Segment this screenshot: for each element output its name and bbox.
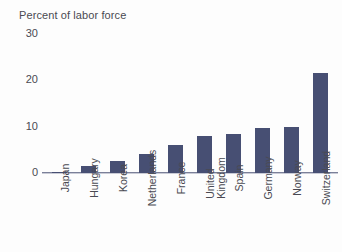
x-axis-tick-label: Netherlands (147, 150, 158, 207)
bar-chart-figure: Percent of labor force 0102030 JapanHung… (0, 0, 342, 252)
x-axis-tick: Hungary (81, 176, 96, 250)
x-axis-tick-label: Japan (60, 164, 71, 193)
plot-area (45, 34, 335, 173)
x-axis-tick: France (168, 176, 183, 250)
x-axis-tick-label: Spain (234, 165, 245, 192)
x-axis-tick: United Kingdom (197, 176, 212, 250)
x-axis-tick: Norway (284, 176, 299, 250)
x-axis-tick: Netherlands (139, 176, 154, 250)
x-axis-tick-label: Norway (292, 160, 303, 196)
x-axis-labels: JapanHungaryKoreaNetherlandsFranceUnited… (45, 176, 335, 252)
y-axis-tick-label: 30 (26, 28, 38, 39)
x-axis-tick-label: Korea (118, 164, 129, 192)
x-axis-tick-label: United Kingdom (205, 157, 227, 198)
x-axis-tick-label: Hungary (89, 158, 100, 198)
x-axis-tick: Japan (52, 176, 67, 250)
x-axis-tick-label: France (176, 162, 187, 195)
y-axis-tick-label: 20 (26, 74, 38, 85)
y-axis: 0102030 (0, 0, 45, 175)
y-axis-tick-label: 10 (26, 121, 38, 132)
x-axis-tick-label: Switzerland (321, 151, 332, 205)
x-axis-tick: Korea (110, 176, 125, 250)
y-axis-tick-label: 0 (32, 167, 38, 178)
x-axis-tick: Spain (226, 176, 241, 250)
x-axis-tick: Switzerland (313, 176, 328, 250)
x-axis-tick: Germany (255, 176, 270, 250)
x-axis-tick-label: Germany (263, 156, 274, 199)
